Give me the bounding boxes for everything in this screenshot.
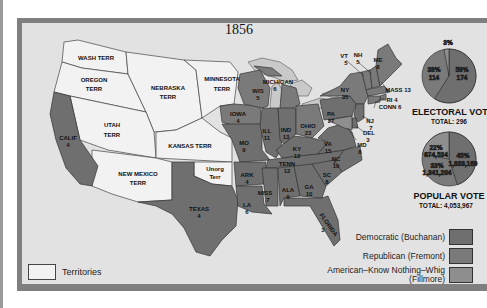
svg-text:8: 8 [358, 149, 362, 155]
svg-text:MD: MD [357, 142, 367, 148]
popular-vote-total: TOTAL: 4,053,967 [406, 202, 486, 209]
popular-vote-title: POPULAR VOTE [412, 191, 486, 201]
svg-text:22%: 22% [429, 144, 442, 151]
svg-text:23: 23 [305, 130, 312, 136]
svg-text:NY: NY [341, 87, 349, 93]
svg-text:33%: 33% [430, 162, 443, 169]
legend-democratic: Democratic (Buchanan) [356, 229, 473, 245]
svg-text:GA: GA [305, 184, 315, 190]
svg-text:VA: VA [324, 141, 333, 147]
svg-text:RI 4: RI 4 [386, 97, 398, 103]
svg-text:SC: SC [323, 172, 332, 178]
svg-text:35: 35 [342, 94, 349, 100]
svg-text:MASS 13: MASS 13 [385, 87, 411, 93]
svg-text:TEXAS: TEXAS [189, 206, 209, 212]
svg-text:Unorg: Unorg [206, 166, 224, 172]
legend-territories-label: Territories [62, 268, 102, 277]
legend-republican: Republican (Fremont) [363, 248, 473, 264]
svg-text:10: 10 [306, 191, 313, 197]
svg-text:Terr: Terr [209, 174, 221, 180]
svg-text:1,838,169: 1,838,169 [449, 160, 478, 168]
svg-text:ILL: ILL [263, 128, 272, 134]
svg-text:TERR: TERR [130, 180, 147, 186]
legend-democratic-label: Democratic (Buchanan) [356, 233, 445, 242]
legend-american-line2: (Fillmore) [327, 275, 445, 284]
svg-text:NJ: NJ [366, 118, 374, 124]
svg-text:27: 27 [328, 118, 335, 124]
electoral-vote-title: ELECTORAL VOTE [412, 107, 486, 117]
svg-text:MICHIGAN: MICHIGAN [263, 79, 293, 85]
svg-text:MO: MO [239, 140, 249, 146]
legend-american-label: American–Know Nothing–Whig (Fillmore) [327, 266, 445, 284]
svg-text:15: 15 [325, 148, 332, 154]
svg-text:VT: VT [340, 53, 348, 59]
svg-text:IND: IND [281, 127, 292, 133]
svg-text:ARK: ARK [241, 172, 255, 178]
state-florida [284, 196, 340, 246]
electoral-vote-pie: 38% 114 59% 174 3% [422, 39, 476, 103]
legend-territories: Territories [28, 264, 102, 280]
svg-text:TERR: TERR [160, 94, 177, 100]
svg-text:174: 174 [457, 74, 468, 81]
state-rhode-island [380, 94, 386, 100]
svg-text:13: 13 [283, 134, 290, 140]
svg-text:114: 114 [429, 74, 440, 81]
svg-text:CALIF: CALIF [59, 135, 77, 141]
legend-republican-label: Republican (Fremont) [363, 252, 445, 261]
svg-text:TERR: TERR [104, 132, 121, 138]
svg-text:45%: 45% [456, 152, 469, 159]
svg-text:NH: NH [354, 52, 363, 58]
state-mississippi [262, 168, 278, 206]
legend-american-swatch [449, 267, 473, 283]
svg-text:NEBRASKA: NEBRASKA [151, 85, 186, 91]
svg-text:UTAH: UTAH [104, 122, 120, 128]
svg-text:TERR: TERR [86, 86, 103, 92]
svg-text:IOWA: IOWA [230, 111, 247, 117]
svg-text:TENN: TENN [279, 161, 295, 167]
svg-text:ME: ME [374, 57, 383, 63]
svg-text:MINNESOTA: MINNESOTA [204, 76, 240, 82]
svg-text:10: 10 [333, 163, 340, 169]
svg-text:PA: PA [327, 111, 336, 117]
svg-text:874,534: 874,534 [424, 151, 448, 159]
svg-text:DEL: DEL [363, 130, 375, 136]
svg-text:TERR: TERR [214, 86, 231, 92]
svg-text:OREGON: OREGON [81, 77, 108, 83]
svg-text:MISS: MISS [258, 190, 273, 196]
svg-text:3: 3 [366, 137, 370, 143]
state-maine [376, 44, 402, 86]
svg-text:WASH TERR: WASH TERR [78, 55, 115, 61]
legend-american: American–Know Nothing–Whig (Fillmore) [327, 266, 473, 284]
svg-text:NC: NC [332, 156, 341, 162]
legend-territories-swatch [28, 264, 56, 280]
legend-democratic-swatch [449, 229, 473, 245]
svg-text:OHIO: OHIO [300, 123, 316, 129]
svg-text:5: 5 [356, 59, 360, 65]
svg-text:LA: LA [243, 202, 252, 208]
state-connecticut [368, 96, 380, 104]
svg-text:11: 11 [264, 135, 271, 141]
svg-text:3%: 3% [443, 39, 453, 46]
svg-text:KANSAS TERR: KANSAS TERR [168, 143, 212, 149]
svg-text:ALA: ALA [282, 187, 295, 193]
svg-text:59%: 59% [455, 66, 468, 73]
svg-text:12: 12 [284, 168, 291, 174]
svg-text:KY: KY [293, 146, 301, 152]
svg-text:CONN 6: CONN 6 [379, 104, 402, 110]
svg-text:12: 12 [294, 153, 301, 159]
map-title: 1856 [225, 22, 253, 38]
svg-text:1,341,264: 1,341,264 [423, 169, 452, 177]
svg-text:38%: 38% [427, 66, 440, 73]
electoral-vote-total: TOTAL: 296 [412, 118, 486, 125]
svg-text:NEW MEXICO: NEW MEXICO [118, 171, 158, 177]
legend-republican-swatch [449, 248, 473, 264]
popular-vote-pie: 22% 874,534 33% 1,341,264 45% 1,838,169 [422, 132, 478, 186]
svg-text:5: 5 [344, 60, 348, 66]
svg-text:WIS: WIS [252, 88, 263, 94]
